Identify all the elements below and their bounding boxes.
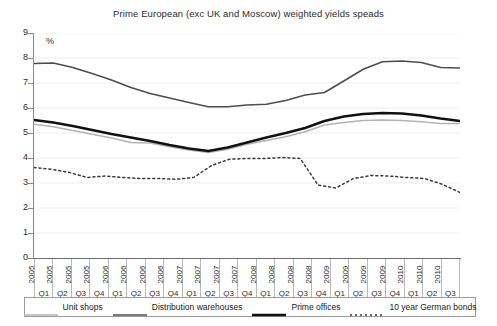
x-tick-year: 2007	[174, 262, 183, 288]
x-tick-year: 2007	[193, 262, 202, 288]
y-tick-label: 8	[10, 53, 28, 62]
x-tick-year: 2009	[322, 262, 331, 288]
x-tick-year: 2010	[414, 262, 423, 288]
y-tick-label: 1	[10, 228, 28, 237]
x-tick-cell: 2010Q3	[442, 259, 460, 299]
x-tick-year: 2008	[267, 262, 276, 288]
legend-label: Distribution warehouses	[152, 302, 243, 312]
legend-label: Prime offices	[291, 302, 340, 312]
x-tick-year: 2010	[396, 262, 405, 288]
legend-swatch-icon	[24, 304, 58, 310]
chart-legend: Unit shopsDistribution warehousesPrime o…	[24, 297, 476, 317]
series-line	[34, 120, 460, 153]
y-tick-mark	[28, 133, 33, 134]
y-tick-label: 7	[10, 78, 28, 87]
y-tick-label: 4	[10, 153, 28, 162]
x-tick-year: 2005	[45, 262, 54, 288]
x-tick-year: 2007	[211, 262, 220, 288]
x-tick-year: 2007	[230, 262, 239, 288]
y-tick-mark	[28, 158, 33, 159]
y-tick-mark	[28, 83, 33, 84]
series-canvas	[34, 33, 460, 258]
x-axis-tick-labels: 2005Q12005Q22005Q32005Q42006Q12006Q22006…	[34, 259, 460, 299]
x-tick-year: 2009	[340, 262, 349, 288]
chart-title: Prime European (exc UK and Moscow) weigh…	[0, 8, 497, 19]
y-tick-label: 3	[10, 178, 28, 187]
y-tick-mark	[28, 58, 33, 59]
y-tick-label: 9	[10, 28, 28, 37]
legend-label: Unit shops	[63, 302, 103, 312]
series-line	[34, 61, 460, 107]
x-tick-year: 2005	[26, 262, 35, 288]
legend-swatch-icon	[113, 304, 147, 310]
y-tick-mark	[28, 258, 33, 259]
chart-figure: Prime European (exc UK and Moscow) weigh…	[0, 0, 497, 326]
x-tick-year: 2006	[119, 262, 128, 288]
x-tick-year: 2006	[137, 262, 146, 288]
y-tick-label: 2	[10, 203, 28, 212]
x-tick-year: 2006	[156, 262, 165, 288]
x-tick-year: 2008	[248, 262, 257, 288]
y-tick-label: 5	[10, 128, 28, 137]
legend-swatch-icon	[252, 304, 286, 310]
series-line	[34, 113, 460, 151]
legend-label: 10 year German bonds	[389, 302, 476, 312]
x-tick-year: 2005	[63, 262, 72, 288]
legend-swatch-icon	[350, 304, 384, 310]
y-tick-label: 0	[10, 253, 28, 262]
legend-item[interactable]: Prime offices	[252, 302, 340, 312]
x-tick-year: 2010	[433, 262, 442, 288]
series-line	[34, 158, 460, 193]
y-tick-mark	[28, 233, 33, 234]
x-tick-year: 2009	[359, 262, 368, 288]
legend-item[interactable]: 10 year German bonds	[350, 302, 476, 312]
legend-item[interactable]: Unit shops	[24, 302, 103, 312]
x-tick-year: 2008	[285, 262, 294, 288]
y-tick-mark	[28, 108, 33, 109]
x-tick-year: 2005	[82, 262, 91, 288]
plot-area	[34, 33, 460, 258]
y-tick-mark	[28, 208, 33, 209]
y-tick-label: 6	[10, 103, 28, 112]
y-tick-mark	[28, 183, 33, 184]
x-tick-year: 2009	[377, 262, 386, 288]
y-tick-mark	[28, 33, 33, 34]
x-tick-year: 2008	[304, 262, 313, 288]
x-tick-year: 2006	[100, 262, 109, 288]
legend-item[interactable]: Distribution warehouses	[113, 302, 243, 312]
